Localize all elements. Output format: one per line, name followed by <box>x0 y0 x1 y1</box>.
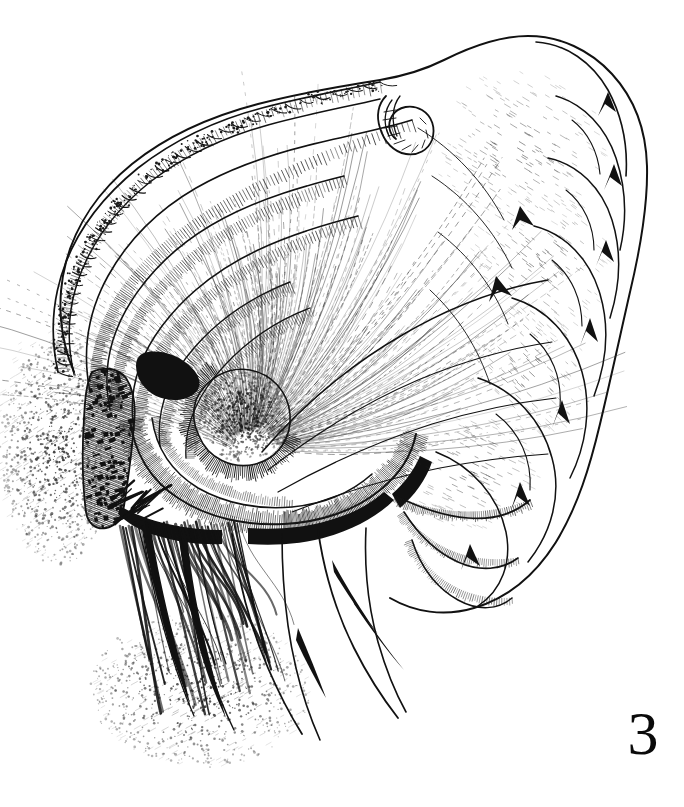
anatomical-illustration <box>0 0 684 807</box>
figure-page: 3 <box>0 0 684 807</box>
illustration-background <box>0 0 684 807</box>
figure-number-label: 3 <box>618 698 668 768</box>
